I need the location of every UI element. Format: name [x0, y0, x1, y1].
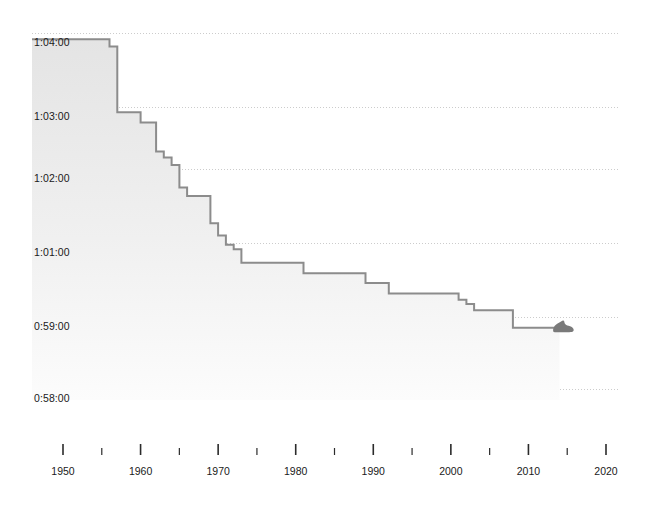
running-shoe-icon [553, 321, 574, 333]
x-axis-label-1960: 1960 [116, 466, 166, 477]
y-axis-label-1-04-00: 1:04:00 [34, 37, 70, 48]
y-axis-label-0-59-00: 0:59:00 [34, 321, 70, 332]
x-axis-ticks [63, 444, 606, 455]
x-axis-label-1950: 1950 [38, 466, 88, 477]
x-axis-label-1990: 1990 [348, 466, 398, 477]
x-axis-label-2020: 2020 [581, 466, 631, 477]
y-axis-label-1-01-00: 1:01:00 [34, 247, 70, 258]
area-under-curve [32, 39, 560, 400]
y-axis-label-1-03-00: 1:03:00 [34, 111, 70, 122]
area-fill [32, 39, 560, 400]
chart-container: 1:04:001:03:001:02:001:01:000:59:000:58:… [0, 0, 651, 507]
x-axis-label-1980: 1980 [271, 466, 321, 477]
x-axis-label-2000: 2000 [426, 466, 476, 477]
x-axis-label-1970: 1970 [193, 466, 243, 477]
x-axis-label-2010: 2010 [503, 466, 553, 477]
y-axis-label-0-58-00: 0:58:00 [34, 393, 70, 404]
y-axis-label-1-02-00: 1:02:00 [34, 173, 70, 184]
running-shoe-glyph [553, 321, 574, 333]
chart-plot-area [0, 0, 651, 507]
